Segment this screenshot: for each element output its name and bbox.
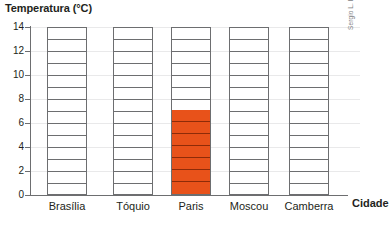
bar-segment-divider: [290, 135, 328, 136]
y-tick-label: 8: [0, 94, 24, 104]
y-tick-label: 14: [0, 22, 24, 32]
bar-segment-divider: [48, 39, 86, 40]
y-axis-line: [30, 26, 31, 196]
bar-segment-divider: [230, 51, 268, 52]
y-tick-label: 10: [0, 70, 24, 80]
bar-segment-divider: [172, 99, 210, 100]
bar-segment-divider: [230, 135, 268, 136]
bar-segment-divider: [230, 159, 268, 160]
bar-segment-divider: [48, 75, 86, 76]
bar-segment-divider: [114, 63, 152, 64]
bar[interactable]: [229, 27, 269, 195]
bar-segment-divider: [172, 39, 210, 40]
y-tick-label: 0: [0, 190, 24, 200]
y-tick-label: 6: [0, 118, 24, 128]
bar[interactable]: [47, 27, 87, 195]
y-tick-mark: [25, 27, 30, 28]
bar-segment-divider: [290, 183, 328, 184]
bar-fill-segment-divider: [172, 157, 210, 158]
bar-segment-divider: [114, 159, 152, 160]
bar-segment-divider: [114, 171, 152, 172]
bar-segment-divider: [230, 39, 268, 40]
bar-segment-divider: [114, 111, 152, 112]
bar-segment-divider: [230, 183, 268, 184]
bar-segment-divider: [290, 147, 328, 148]
bar-segment-divider: [230, 123, 268, 124]
y-tick-mark: [25, 195, 30, 196]
bar-segment-divider: [114, 87, 152, 88]
bar-segment-divider: [172, 63, 210, 64]
bar-segment-divider: [290, 51, 328, 52]
bar-segment-divider: [48, 111, 86, 112]
bar-segment-divider: [290, 159, 328, 160]
bar-segment-divider: [48, 135, 86, 136]
bar-segment-divider: [114, 39, 152, 40]
bar-segment-divider: [114, 135, 152, 136]
y-tick-mark: [25, 99, 30, 100]
bar-segment-divider: [230, 75, 268, 76]
bar-segment-divider: [48, 51, 86, 52]
bar-segment-divider: [48, 123, 86, 124]
y-tick-mark: [25, 171, 30, 172]
y-tick-mark: [25, 51, 30, 52]
bar-segment-divider: [48, 171, 86, 172]
bar[interactable]: [171, 27, 211, 195]
bar-segment-divider: [114, 123, 152, 124]
x-axis-title: Cidade: [352, 197, 389, 209]
bar-segment-divider: [230, 171, 268, 172]
bar[interactable]: [113, 27, 153, 195]
bar-segment-divider: [290, 87, 328, 88]
bar-fill-segment-divider: [172, 133, 210, 134]
y-tick-mark: [25, 75, 30, 76]
bar-segment-divider: [230, 111, 268, 112]
bar-segment-divider: [230, 87, 268, 88]
bar-segment-divider: [48, 87, 86, 88]
bar-segment-divider: [172, 51, 210, 52]
bar-fill-segment-divider: [172, 169, 210, 170]
bar-segment-divider: [48, 63, 86, 64]
bar-segment-divider: [48, 99, 86, 100]
bar-segment-divider: [114, 75, 152, 76]
bar-segment-divider: [290, 99, 328, 100]
bar[interactable]: [289, 27, 329, 195]
bar-segment-divider: [48, 183, 86, 184]
bar-segment-divider: [290, 111, 328, 112]
bar-fill-segment-divider: [172, 181, 210, 182]
bar-segment-divider: [114, 99, 152, 100]
bar-segment-divider: [230, 63, 268, 64]
bar-segment-divider: [290, 171, 328, 172]
bar-segment-divider: [290, 75, 328, 76]
bar-segment-divider: [48, 147, 86, 148]
bar-segment-divider: [48, 159, 86, 160]
bar-fill-segment-divider: [172, 145, 210, 146]
bar-segment-divider: [230, 147, 268, 148]
image-credit: Sergio L. Filho/ID/BR: [347, 0, 354, 30]
y-tick-mark: [25, 147, 30, 148]
bar-segment-divider: [114, 183, 152, 184]
bar-segment-divider: [172, 75, 210, 76]
bar-segment-divider: [290, 63, 328, 64]
y-tick-label: 4: [0, 142, 24, 152]
bar-fill-segment-divider: [172, 121, 210, 122]
bar-segment-divider: [290, 39, 328, 40]
bar-segment-divider: [230, 99, 268, 100]
bar-segment-divider: [172, 87, 210, 88]
bar-segment-divider: [290, 123, 328, 124]
y-tick-mark: [25, 123, 30, 124]
x-category-label: Camberra: [269, 200, 349, 212]
y-tick-label: 12: [0, 46, 24, 56]
bar-segment-divider: [114, 147, 152, 148]
bar-fill-paris: [172, 110, 210, 194]
x-axis-line: [30, 195, 348, 196]
y-axis-ticks: 02468101214: [0, 0, 24, 226]
y-tick-label: 2: [0, 166, 24, 176]
bar-segment-divider: [114, 51, 152, 52]
